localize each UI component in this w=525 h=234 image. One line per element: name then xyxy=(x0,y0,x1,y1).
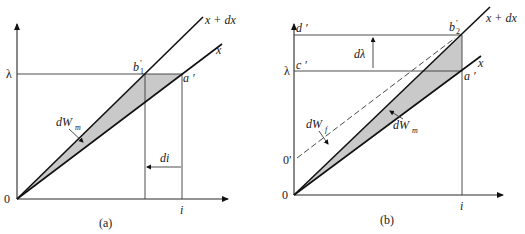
flux-linkage-diagram: 0 λ i x + dx x b ′ 1 a ′ dW m di (a) xyxy=(0,0,525,234)
lambda-label-b: λ xyxy=(284,64,290,78)
x-label-a: x xyxy=(215,43,222,57)
svg-text:1: 1 xyxy=(140,67,144,76)
i-label-a: i xyxy=(180,203,183,217)
svg-text:dW: dW xyxy=(393,118,410,132)
curve-x-b xyxy=(294,56,481,195)
point-b1-label: b ′ 1 xyxy=(133,58,144,76)
dwm-label-b: dW m xyxy=(393,118,418,135)
dwm-label-a: dW m xyxy=(56,115,81,132)
panel-a: 0 λ i x + dx x b ′ 1 a ′ dW m di (a) xyxy=(4,13,236,230)
d-prime-label-b: d ′ xyxy=(296,21,308,35)
x-label-b: x xyxy=(477,56,484,70)
point-b2-label: b ′ 2 xyxy=(449,18,460,36)
svg-text:m: m xyxy=(75,123,81,132)
svg-text:2: 2 xyxy=(456,27,460,36)
origin-prime-label-b: 0′ xyxy=(283,153,292,167)
svg-text:m: m xyxy=(412,126,418,135)
c-prime-label-b: c ′ xyxy=(296,58,307,72)
svg-text:dW: dW xyxy=(306,117,323,131)
curve-x-plus-dx-a xyxy=(17,17,203,199)
panel-b: 0 0′ λ c ′ d ′ i x + dx x b ′ 2 a ′ dλ d… xyxy=(282,7,517,227)
svg-text:b: b xyxy=(449,20,455,34)
origin-label-b: 0 xyxy=(282,188,288,202)
svg-text:f: f xyxy=(325,125,329,134)
caption-b: (b) xyxy=(380,213,394,227)
point-a-prime-label-b: a ′ xyxy=(464,69,476,83)
dwf-label-b: dW f xyxy=(306,117,329,134)
dlambda-label-b: dλ xyxy=(354,47,365,61)
caption-a: (a) xyxy=(99,216,112,230)
point-a-prime-label-a: a ′ xyxy=(183,71,195,85)
svg-text:dW: dW xyxy=(56,115,73,129)
origin-label-a: 0 xyxy=(4,192,10,206)
lambda-label-a: λ xyxy=(6,67,12,81)
x-plus-dx-label-b: x + dx xyxy=(485,11,517,25)
di-label-a: di xyxy=(160,151,169,165)
i-label-b: i xyxy=(460,199,463,213)
x-plus-dx-label-a: x + dx xyxy=(204,13,236,27)
curve-x-a xyxy=(17,44,222,199)
dashed-line-o-prime-b xyxy=(297,38,455,158)
svg-text:b: b xyxy=(133,60,139,74)
